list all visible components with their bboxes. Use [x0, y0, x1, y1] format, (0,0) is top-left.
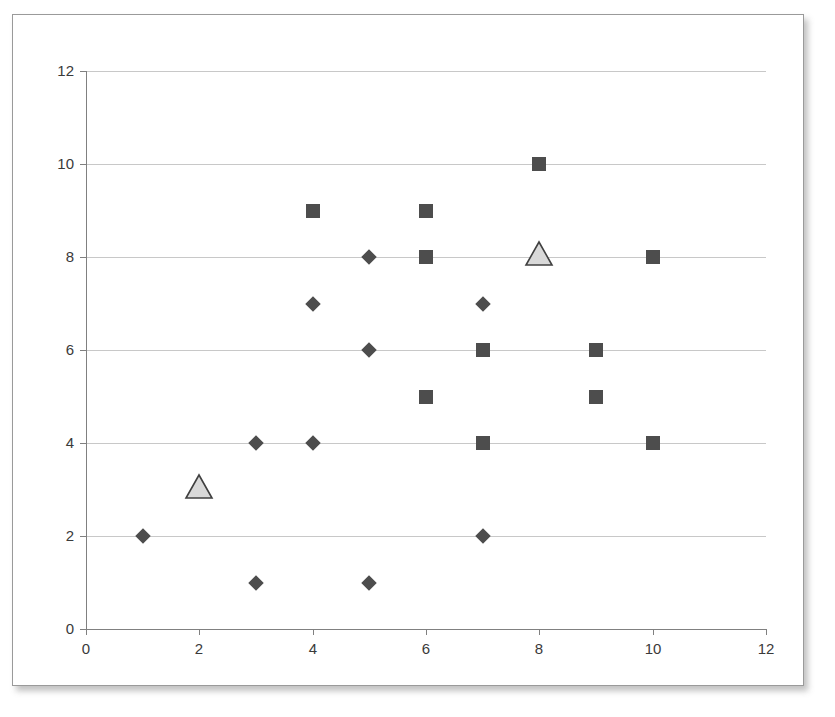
x-axis-tick-label: 12 — [749, 640, 783, 657]
data-point-diamond — [248, 575, 264, 591]
gridline-y — [86, 164, 766, 165]
data-point-square — [419, 390, 433, 404]
x-axis-tick — [426, 629, 427, 635]
x-axis-tick — [766, 629, 767, 635]
x-axis-tick — [653, 629, 654, 635]
x-axis-tick — [539, 629, 540, 635]
x-axis-tick-label: 0 — [69, 640, 103, 657]
data-point-diamond — [248, 435, 264, 451]
gridline-y — [86, 350, 766, 351]
data-point-square — [419, 250, 433, 264]
y-axis-tick-label: 0 — [40, 620, 74, 637]
scatter-plot: 024681012024681012 — [13, 15, 805, 687]
y-axis-tick — [80, 443, 86, 444]
y-axis-line — [86, 71, 87, 629]
data-point-diamond — [305, 435, 321, 451]
y-axis-tick-label: 12 — [40, 62, 74, 79]
gridline-y — [86, 71, 766, 72]
data-point-square — [646, 250, 660, 264]
y-axis-tick — [80, 536, 86, 537]
data-point-square — [419, 204, 433, 218]
x-axis-tick-label: 2 — [182, 640, 216, 657]
x-axis-tick — [86, 629, 87, 635]
data-point-diamond — [135, 528, 151, 544]
chart-frame: 024681012024681012 — [12, 14, 804, 686]
data-point-diamond — [362, 249, 378, 265]
y-axis-tick-label: 8 — [40, 248, 74, 265]
y-axis-tick — [80, 71, 86, 72]
x-axis-tick — [199, 629, 200, 635]
x-axis-tick-label: 4 — [296, 640, 330, 657]
x-axis-tick-label: 6 — [409, 640, 443, 657]
data-point-square — [476, 343, 490, 357]
y-axis-tick-label: 10 — [40, 155, 74, 172]
data-point-square — [306, 204, 320, 218]
data-point-diamond — [475, 296, 491, 312]
gridline-y — [86, 443, 766, 444]
y-axis-tick-label: 4 — [40, 434, 74, 451]
data-point-diamond — [362, 342, 378, 358]
gridline-y — [86, 536, 766, 537]
y-axis-tick-label: 6 — [40, 341, 74, 358]
x-axis-tick — [313, 629, 314, 635]
y-axis-tick — [80, 350, 86, 351]
data-point-diamond — [305, 296, 321, 312]
data-point-square — [532, 157, 546, 171]
x-axis-tick-label: 10 — [636, 640, 670, 657]
data-point-diamond — [475, 528, 491, 544]
data-point-square — [646, 436, 660, 450]
y-axis-tick — [80, 257, 86, 258]
x-axis-tick-label: 8 — [522, 640, 556, 657]
y-axis-tick-label: 2 — [40, 527, 74, 544]
y-axis-tick — [80, 164, 86, 165]
data-point-square — [589, 390, 603, 404]
data-point-diamond — [362, 575, 378, 591]
data-point-square — [476, 436, 490, 450]
data-point-square — [589, 343, 603, 357]
